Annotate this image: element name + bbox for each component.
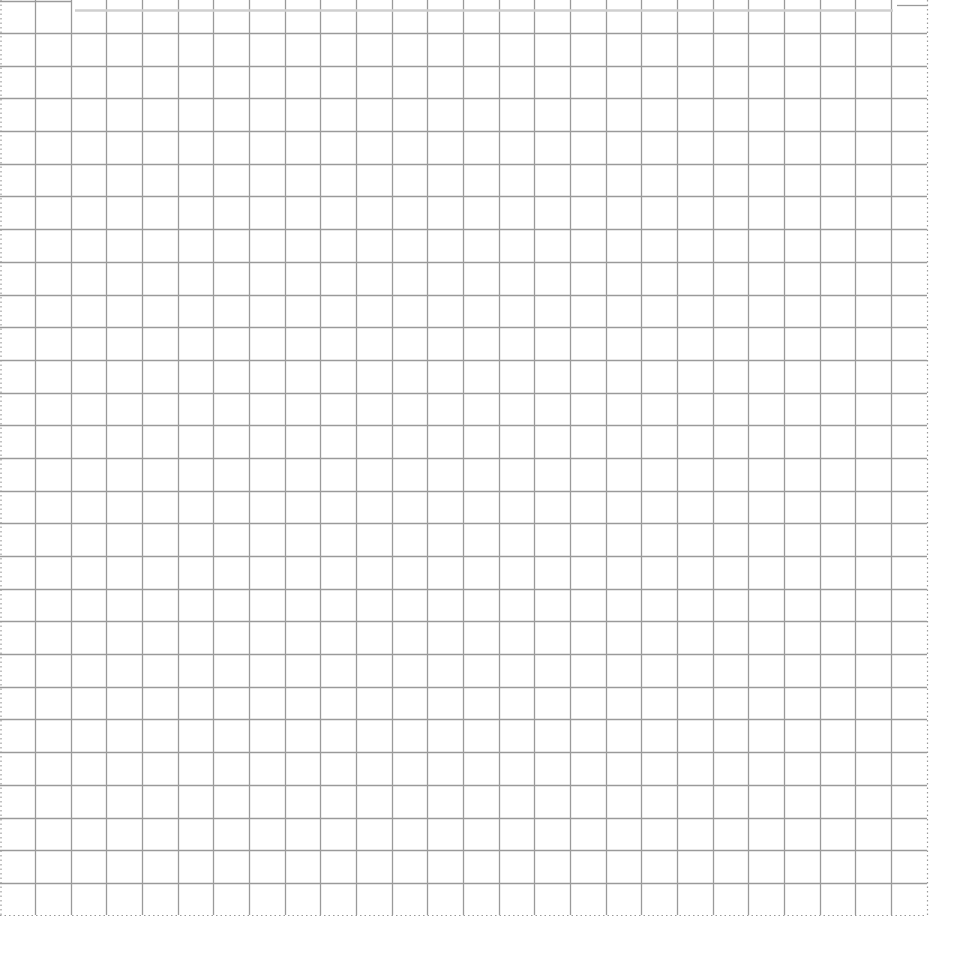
vertical-grid-lines [36, 0, 892, 915]
graph-paper-grid [0, 0, 963, 963]
